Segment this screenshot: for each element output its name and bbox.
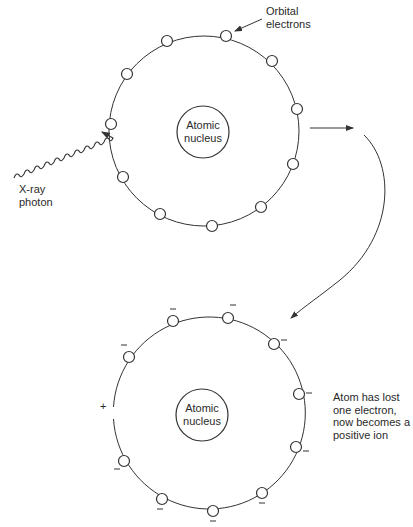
caption-line: positive ion <box>333 429 410 442</box>
ion-nucleus-label: Atomic nucleus <box>172 402 232 427</box>
label-line: electrons <box>266 18 311 31</box>
ionization-diagram <box>0 0 413 527</box>
orbital-electrons-label: Orbital electrons <box>266 5 311 30</box>
xray-photon-wave <box>14 132 113 178</box>
caption-line: one electron, <box>333 404 410 417</box>
curved-transition-arrow <box>291 135 385 318</box>
nucleus-label: Atomic nucleus <box>173 119 233 144</box>
label-line: nucleus <box>173 132 233 145</box>
neutral-atom <box>14 19 303 232</box>
ion-caption: Atom has lost one electron, now becomes … <box>333 391 410 441</box>
label-line: photon <box>19 196 53 209</box>
label-line: nucleus <box>172 415 232 428</box>
label-line: Orbital <box>266 5 311 18</box>
caption-line: Atom has lost <box>333 391 410 404</box>
label-line: Atomic <box>173 119 233 132</box>
electrons-pointer <box>235 19 262 31</box>
xray-photon-label: X-ray photon <box>19 183 53 208</box>
label-line: X-ray <box>19 183 53 196</box>
caption-line: now becomes a <box>333 416 410 429</box>
positive-charge-symbol: + <box>100 400 106 413</box>
label-line: Atomic <box>172 402 232 415</box>
